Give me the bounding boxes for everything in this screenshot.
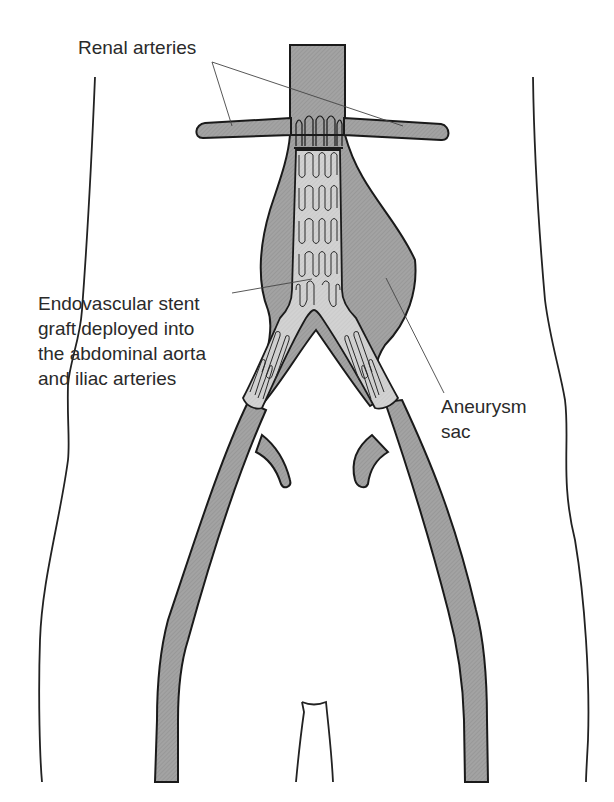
stent-graft-label-line: the abdominal aorta [38, 341, 206, 366]
aneurysm-sac-label: Aneurysm sac [441, 394, 527, 444]
stent-graft-label-line: and iliac arteries [38, 366, 206, 391]
renal-arteries-label: Renal arteries [78, 35, 196, 60]
aneurysm-sac-label-line: sac [441, 419, 527, 444]
stent-graft-label: Endovascular stent graft deployed into t… [38, 291, 206, 391]
aneurysm-sac-label-line: Aneurysm [441, 394, 527, 419]
stent-graft-label-line: Endovascular stent [38, 291, 206, 316]
stent-graft-label-line: graft deployed into [38, 316, 206, 341]
